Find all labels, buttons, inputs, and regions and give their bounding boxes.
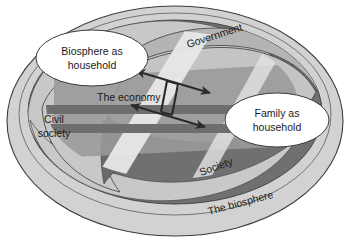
callout-biosphere-line2: household [68,59,117,71]
callout-family-line2: household [253,121,302,133]
callout-family-ellipse [225,93,329,147]
callout-biosphere-ellipse [36,30,148,86]
callout-family-as-household[interactable]: Family as household [225,93,329,147]
callout-family-line1: Family as [255,107,300,119]
label-the-economy: The economy [97,91,161,103]
diagram-canvas: Biosphere as household Family as househo… [0,0,351,242]
label-civil-society-line1: Civil [44,113,64,125]
callout-biosphere-line1: Biosphere as [61,45,122,57]
nested-systems-diagram: Biosphere as household Family as househo… [0,0,351,242]
label-civil-society-line2: society [38,127,71,139]
callout-biosphere-as-household[interactable]: Biosphere as household [36,30,148,86]
